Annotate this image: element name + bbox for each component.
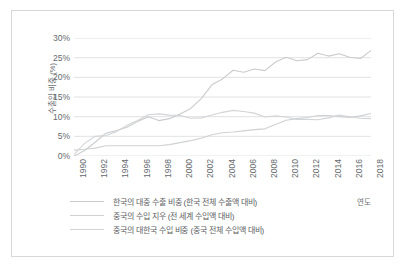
y-tick-label: 25% <box>38 54 70 62</box>
x-tick-label: 2006 <box>248 159 258 178</box>
x-tick-label: 2016 <box>354 159 364 178</box>
x-tick-label: 2010 <box>290 159 300 178</box>
x-tick-label: 1992 <box>99 159 109 178</box>
x-tick-label: 2000 <box>184 159 194 178</box>
x-tick-label: 1994 <box>120 159 130 178</box>
y-tick-label: 5% <box>38 132 70 140</box>
x-axis-tick-labels: 1990199219941996199820002002200420062008… <box>74 159 371 193</box>
x-tick-label: 2008 <box>269 159 279 178</box>
series-line-2 <box>74 114 371 151</box>
x-tick-label: 2018 <box>375 159 385 178</box>
x-tick-label: 1996 <box>142 159 152 178</box>
legend-label: 한국의 대중 수출 비중 (한국 전체 수출액 대비) <box>113 196 257 207</box>
legend-item: 중국의 대한국 수입 비중 (중국 전체 수입액 대비) <box>70 222 370 236</box>
x-tick-label: 2012 <box>311 159 321 178</box>
chart-legend: 한국의 대중 수출 비중 (한국 전체 수출액 대비)중국의 수입 지우 (전 … <box>70 194 370 236</box>
legend-item: 한국의 대중 수출 비중 (한국 전체 수출액 대비) <box>70 194 370 208</box>
y-tick-label: 0% <box>38 152 70 160</box>
y-tick-label: 15% <box>38 93 70 101</box>
legend-line-icon <box>70 215 104 216</box>
series-lines <box>74 51 371 156</box>
legend-label: 중국의 대한국 수입 비중 (중국 전체 수입액 대비) <box>113 224 264 235</box>
x-tick-label: 1998 <box>163 159 173 178</box>
legend-item: 중국의 수입 지우 (전 세계 수입액 대비) <box>70 208 370 222</box>
y-axis-tick-labels: 30%25%20%15%10%5%0% <box>34 38 70 156</box>
x-tick-label: 1990 <box>78 159 88 178</box>
y-tick-label: 30% <box>38 34 70 42</box>
series-line-1 <box>74 51 371 156</box>
legend-label: 중국의 수입 지우 (전 세계 수입액 대비) <box>113 210 234 221</box>
x-tick-label: 2002 <box>205 159 215 178</box>
x-tick-label: 2014 <box>333 159 343 178</box>
y-tick-label: 10% <box>38 113 70 121</box>
line-chart-svg <box>74 38 371 156</box>
plot-area <box>74 38 371 156</box>
x-tick-label: 2004 <box>227 159 237 178</box>
legend-line-icon <box>70 201 104 202</box>
y-tick-label: 20% <box>38 73 70 81</box>
chart-figure: 수출입 비중 (%) 30%25%20%15%10%5%0% 199019921… <box>11 10 394 257</box>
legend-line-icon <box>70 229 104 230</box>
